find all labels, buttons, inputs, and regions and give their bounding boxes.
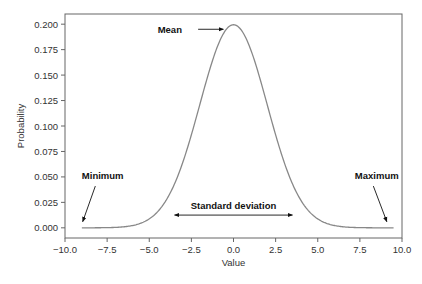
chart: −10.0−7.5−5.0−2.50.02.55.07.510.0 0.0000… bbox=[0, 0, 422, 284]
y-tick-label: 0.050 bbox=[34, 171, 58, 182]
series-line bbox=[82, 25, 394, 228]
y-tick-label: 0.000 bbox=[34, 222, 58, 233]
y-axis-label: Probability bbox=[15, 104, 26, 149]
x-tick-label: −2.5 bbox=[182, 244, 201, 255]
annotation-maximum-arrow bbox=[373, 186, 386, 222]
annotations-layer: MeanMinimumMaximumStandard deviation bbox=[82, 24, 399, 222]
y-tick-label: 0.025 bbox=[34, 197, 58, 208]
series-layer bbox=[82, 25, 394, 228]
annotation-minimum-label: Minimum bbox=[82, 170, 124, 181]
annotation-maximum-label: Maximum bbox=[355, 170, 399, 181]
annotation-std-label: Standard deviation bbox=[191, 200, 277, 211]
x-tick-label: −5.0 bbox=[140, 244, 159, 255]
x-axis-ticks: −10.0−7.5−5.0−2.50.02.55.07.510.0 bbox=[53, 238, 411, 255]
x-tick-label: 10.0 bbox=[393, 244, 412, 255]
y-tick-label: 0.125 bbox=[34, 95, 58, 106]
x-tick-label: 0.0 bbox=[227, 244, 240, 255]
annotation-mean-label: Mean bbox=[158, 24, 182, 35]
x-tick-label: 2.5 bbox=[269, 244, 282, 255]
y-tick-label: 0.200 bbox=[34, 19, 58, 30]
y-tick-label: 0.150 bbox=[34, 70, 58, 81]
x-axis-label: Value bbox=[222, 257, 246, 268]
x-tick-label: 5.0 bbox=[311, 244, 324, 255]
y-tick-label: 0.075 bbox=[34, 146, 58, 157]
x-tick-label: −10.0 bbox=[53, 244, 77, 255]
x-tick-label: 7.5 bbox=[353, 244, 366, 255]
y-axis-ticks: 0.0000.0250.0500.0750.1000.1250.1500.175… bbox=[34, 19, 65, 234]
y-tick-label: 0.175 bbox=[34, 44, 58, 55]
annotation-minimum-arrow bbox=[83, 186, 96, 222]
x-tick-label: −7.5 bbox=[98, 244, 117, 255]
y-tick-label: 0.100 bbox=[34, 121, 58, 132]
